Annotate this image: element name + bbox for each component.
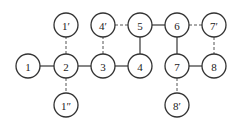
node-label: 7′ [210,20,218,32]
node-n8p: 8′ [165,93,189,117]
node-n3: 3 [91,54,115,78]
node-n2: 2 [54,54,78,78]
node-n1: 1 [16,54,40,78]
node-n7: 7 [165,54,189,78]
graph-diagram: 12341′4′567′781″8′ [0,0,238,126]
node-label: 1″ [61,100,71,112]
node-n6: 6 [165,13,189,37]
nodes-layer: 12341′4′567′781″8′ [16,13,226,117]
node-n1pp: 1″ [54,93,78,117]
node-label: 2 [63,61,69,73]
node-label: 7 [174,61,180,73]
node-n4: 4 [128,54,152,78]
node-n7p: 7′ [202,13,226,37]
node-n5: 5 [128,13,152,37]
node-n4p: 4′ [91,13,115,37]
node-label: 4 [137,61,143,73]
node-label: 1′ [62,20,70,32]
node-label: 8′ [173,100,181,112]
node-label: 3 [100,61,106,73]
node-label: 6 [174,20,180,32]
node-n1p: 1′ [54,13,78,37]
node-label: 5 [137,20,143,32]
node-label: 1 [25,61,31,73]
node-label: 4′ [99,20,107,32]
node-n8: 8 [202,54,226,78]
node-label: 8 [211,61,217,73]
